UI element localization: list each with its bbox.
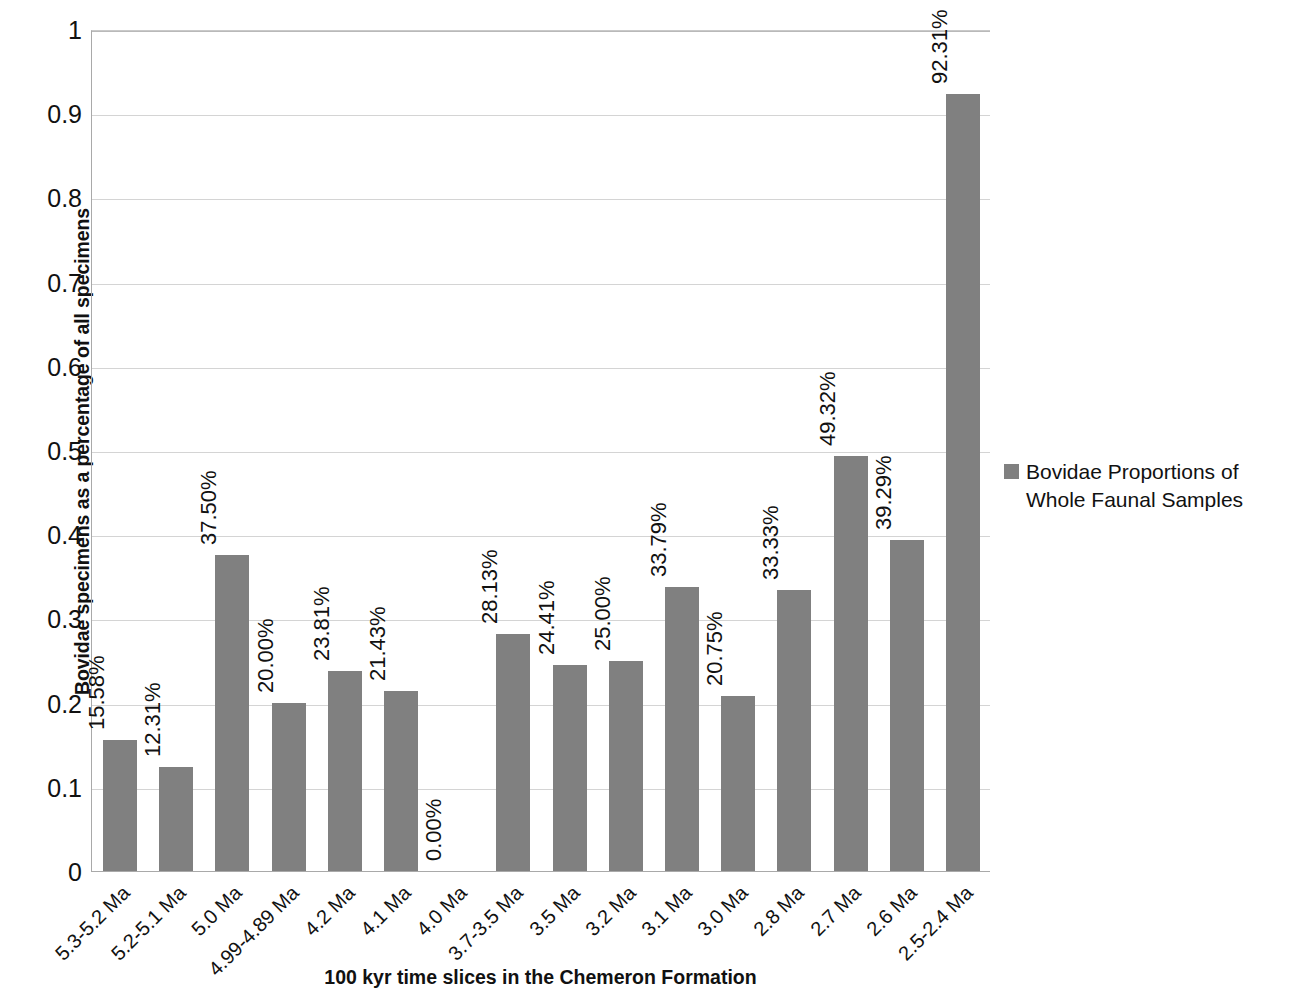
y-axis-tick-label: 0.7 (0, 270, 82, 295)
bar[interactable] (665, 587, 699, 872)
bar[interactable] (159, 767, 193, 871)
bar-value-label: 39.29% (873, 456, 895, 531)
bar[interactable] (609, 661, 643, 872)
bar[interactable] (721, 696, 755, 871)
bar[interactable] (103, 740, 137, 871)
bar-slot[interactable]: 21.43% (373, 31, 429, 871)
bar[interactable] (553, 665, 587, 871)
bar[interactable] (777, 590, 811, 871)
bar-value-label: 25.00% (592, 576, 614, 651)
bar[interactable] (890, 540, 924, 871)
bar-slot[interactable]: 23.81% (317, 31, 373, 871)
bar-slot[interactable]: 92.31% (935, 31, 991, 871)
y-axis-tick-label: 0.4 (0, 523, 82, 548)
bar-value-label: 33.79% (648, 502, 670, 577)
bar-value-label: 12.31% (142, 683, 164, 758)
bar-value-label: 15.58% (86, 655, 108, 730)
y-axis-tick-label: 0.2 (0, 691, 82, 716)
plot-area: 15.58%12.31%37.50%20.00%23.81%21.43%0.00… (91, 30, 990, 872)
bar-value-label: 28.13% (479, 550, 501, 625)
y-axis-tick-label: 0.6 (0, 354, 82, 379)
bar-value-label: 21.43% (367, 606, 389, 681)
y-axis-tick-labels: 00.10.20.30.40.50.60.70.80.91 (0, 0, 82, 1000)
bar[interactable] (496, 634, 530, 871)
bar-slot[interactable]: 20.00% (261, 31, 317, 871)
x-axis-title: 100 kyr time slices in the Chemeron Form… (91, 966, 990, 989)
bar[interactable] (215, 555, 249, 871)
bar[interactable] (328, 671, 362, 871)
bar-slot[interactable]: 28.13% (485, 31, 541, 871)
y-axis-tick-label: 0.8 (0, 186, 82, 211)
y-axis-tick-label: 0.5 (0, 439, 82, 464)
bar-slot[interactable]: 0.00% (429, 31, 485, 871)
legend-swatch-icon (1004, 464, 1019, 479)
bar[interactable] (384, 691, 418, 871)
bar-slot[interactable]: 33.79% (654, 31, 710, 871)
bar-value-label: 0.00% (423, 799, 445, 861)
bar-slot[interactable]: 49.32% (822, 31, 878, 871)
bar-value-label: 20.00% (255, 618, 277, 693)
bar-slot[interactable]: 37.50% (204, 31, 260, 871)
y-axis-tick-label: 0.3 (0, 607, 82, 632)
bar[interactable] (834, 456, 868, 871)
bar[interactable] (946, 94, 980, 871)
bar-value-label: 23.81% (311, 586, 333, 661)
y-axis-tick-label: 0 (0, 860, 82, 885)
bar-slot[interactable]: 25.00% (598, 31, 654, 871)
bar-slot[interactable]: 12.31% (148, 31, 204, 871)
bar-value-label: 20.75% (704, 612, 726, 687)
bar-value-label: 37.50% (198, 471, 220, 546)
bar-slot[interactable]: 24.41% (542, 31, 598, 871)
bar[interactable] (272, 703, 306, 871)
bar-slot[interactable]: 39.29% (879, 31, 935, 871)
bar-value-label: 33.33% (760, 506, 782, 581)
bar-slot[interactable]: 33.33% (766, 31, 822, 871)
bar-value-label: 92.31% (929, 9, 951, 84)
legend: Bovidae Proportions of Whole Faunal Samp… (1004, 458, 1290, 513)
bar-chart: Bovidae specimens as a percentage of all… (0, 0, 1290, 1000)
y-axis-tick-label: 1 (0, 18, 82, 43)
bar-slot[interactable]: 20.75% (710, 31, 766, 871)
bars-layer: 15.58%12.31%37.50%20.00%23.81%21.43%0.00… (92, 31, 990, 871)
bar-value-label: 24.41% (536, 581, 558, 656)
legend-entry-label: Bovidae Proportions of Whole Faunal Samp… (1026, 458, 1288, 513)
bar-value-label: 49.32% (817, 371, 839, 446)
y-axis-tick-label: 0.9 (0, 102, 82, 127)
y-axis-tick-label: 0.1 (0, 775, 82, 800)
